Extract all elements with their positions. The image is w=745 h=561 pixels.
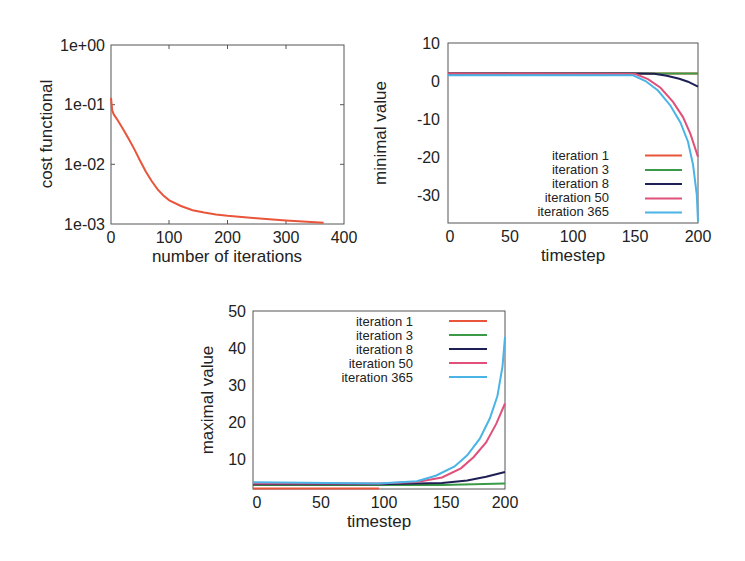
y-axis: 10 0 -10 -20 -30 minimal value bbox=[371, 35, 440, 204]
y-tick-label: 0 bbox=[431, 73, 440, 90]
y-tick-label: -30 bbox=[417, 187, 440, 204]
legend-label: iteration 1 bbox=[552, 148, 609, 163]
x-tick-label: 50 bbox=[501, 228, 519, 245]
x-tick-label: 400 bbox=[331, 229, 358, 246]
y-tick-label: 1e-03 bbox=[64, 216, 105, 233]
legend-label: iteration 365 bbox=[537, 204, 609, 219]
y-axis: 50 40 30 20 10 maximal value bbox=[198, 303, 246, 468]
legend: iteration 1 iteration 3 iteration 8 iter… bbox=[341, 314, 487, 385]
x-tick-label: 0 bbox=[253, 494, 262, 511]
legend-label: iteration 50 bbox=[545, 190, 609, 205]
legend-label: iteration 50 bbox=[349, 356, 413, 371]
y-tick-label: 1e-01 bbox=[64, 96, 105, 113]
legend-label: iteration 3 bbox=[356, 328, 413, 343]
series-line bbox=[253, 404, 505, 484]
maximal-value-plot: 50 40 30 20 10 maximal value 0 50 100 15… bbox=[198, 303, 518, 531]
x-axis: 0 100 200 300 400 number of iterations bbox=[107, 45, 358, 266]
cost-series-line bbox=[111, 98, 324, 223]
y-tick-label: 50 bbox=[228, 303, 246, 320]
y-tick-label: 1e+00 bbox=[60, 37, 105, 54]
y-tick-label: 1e-02 bbox=[64, 156, 105, 173]
x-tick-label: 50 bbox=[312, 494, 330, 511]
y-tick-label: 40 bbox=[228, 340, 246, 357]
x-tick-label: 100 bbox=[156, 229, 183, 246]
x-tick-label: 100 bbox=[371, 494, 398, 511]
x-axis: 0 50 100 150 200 timestep bbox=[253, 494, 519, 531]
x-axis-label: timestep bbox=[541, 246, 605, 265]
x-tick-label: 150 bbox=[433, 494, 460, 511]
legend-label: iteration 8 bbox=[356, 342, 413, 357]
x-tick-label: 0 bbox=[107, 229, 116, 246]
y-tick-label: 20 bbox=[228, 414, 246, 431]
x-tick-label: 200 bbox=[685, 228, 712, 245]
x-axis-label: number of iterations bbox=[152, 247, 302, 266]
y-tick-label: -10 bbox=[417, 111, 440, 128]
y-tick-label: 30 bbox=[228, 377, 246, 394]
legend: iteration 1 iteration 3 iteration 8 iter… bbox=[537, 148, 682, 219]
figure: 1e+00 1e-01 1e-02 1e-03 cost functional … bbox=[0, 0, 745, 561]
x-tick-label: 200 bbox=[214, 229, 241, 246]
legend-label: iteration 3 bbox=[552, 162, 609, 177]
x-tick-label: 150 bbox=[622, 228, 649, 245]
legend-label: iteration 1 bbox=[356, 314, 413, 329]
x-axis-label: timestep bbox=[347, 512, 411, 531]
y-tick-label: -20 bbox=[417, 149, 440, 166]
y-axis-label: maximal value bbox=[198, 346, 217, 455]
minimal-value-plot: 10 0 -10 -20 -30 minimal value 0 50 100 … bbox=[371, 35, 711, 265]
y-tick-label: 10 bbox=[422, 35, 440, 52]
legend-label: iteration 365 bbox=[341, 370, 413, 385]
x-tick-label: 200 bbox=[492, 494, 519, 511]
legend-label: iteration 8 bbox=[552, 176, 609, 191]
y-axis-label: minimal value bbox=[371, 81, 390, 185]
plot-frame bbox=[111, 45, 344, 224]
y-tick-label: 10 bbox=[228, 451, 246, 468]
x-tick-label: 300 bbox=[273, 229, 300, 246]
x-tick-label: 0 bbox=[446, 228, 455, 245]
x-tick-label: 100 bbox=[560, 228, 587, 245]
x-axis: 0 50 100 150 200 timestep bbox=[446, 228, 712, 265]
series-line bbox=[448, 73, 698, 156]
y-axis: 1e+00 1e-01 1e-02 1e-03 cost functional bbox=[37, 37, 344, 233]
cost-functional-plot: 1e+00 1e-01 1e-02 1e-03 cost functional … bbox=[37, 37, 357, 266]
y-axis-label: cost functional bbox=[37, 80, 56, 189]
